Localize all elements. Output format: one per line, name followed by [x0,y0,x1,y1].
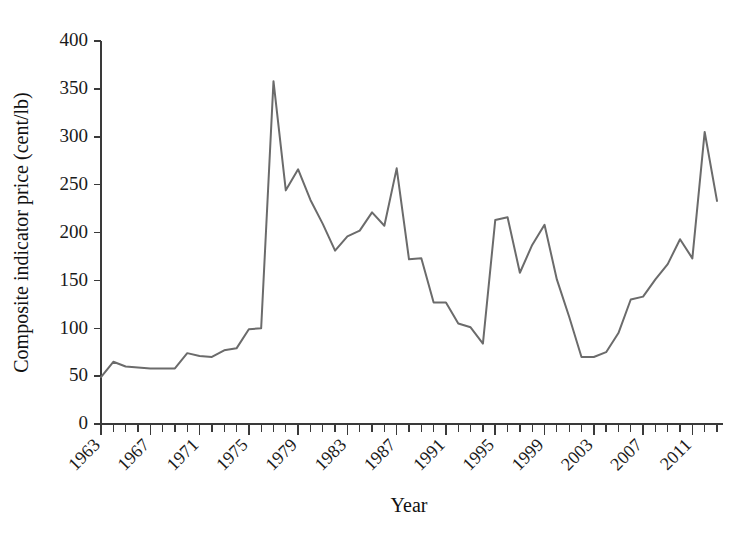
x-tick-label: 1995 [458,435,498,475]
chart-figure: 050100150200250300350400 196319671971197… [0,0,746,536]
x-axis-title: Year [391,494,428,516]
x-tick-label: 1999 [508,435,548,475]
x-tick-label: 1987 [360,435,400,475]
y-tick-label: 0 [79,412,89,433]
y-tick-label: 400 [60,29,89,50]
y-tick-label: 300 [60,125,89,146]
x-tick-label: 1979 [261,435,301,475]
y-tick-label: 350 [60,77,89,98]
y-axis-title: Composite indicator price (cent/lb) [10,92,33,372]
x-tick-label: 1991 [409,435,449,475]
x-tick-label: 2007 [606,435,646,475]
x-tick-label: 1975 [212,435,252,475]
y-tick-label: 250 [60,173,89,194]
x-tick-label: 1971 [163,435,203,475]
y-tick-label: 100 [60,317,89,338]
line-chart-svg: 050100150200250300350400 196319671971197… [0,0,746,536]
axis-spines [101,41,723,424]
axes-group [101,41,723,424]
y-tick-label: 150 [60,269,89,290]
x-tick-labels: 1963196719711975197919831987199119951999… [64,435,695,475]
x-tick-label: 2003 [557,435,597,475]
y-tick-label: 50 [69,364,88,385]
y-tick-label: 200 [60,221,89,242]
x-tick-label: 2011 [656,435,695,474]
x-tick-label: 1983 [311,435,351,475]
y-tick-labels: 050100150200250300350400 [60,29,89,433]
x-tick-label: 1963 [64,435,104,475]
data-series-composite-indicator-price [101,81,717,377]
price-line [101,81,717,377]
x-tick-label: 1967 [114,435,154,475]
